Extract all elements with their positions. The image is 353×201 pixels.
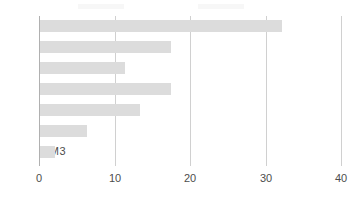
x-tick-label: 20 <box>175 172 205 185</box>
x-tick-label: 40 <box>326 172 353 185</box>
bar-row: M1 <box>0 100 353 121</box>
bar <box>40 125 87 137</box>
bar-row: S3 <box>0 58 353 79</box>
bar-row: S4 <box>0 79 353 100</box>
x-tick-label: 10 <box>100 172 130 185</box>
x-tick-label: 30 <box>251 172 281 185</box>
bar-chart: S1S2S3S4M1M2M3 010203040 <box>0 0 353 201</box>
bar-row: M2 <box>0 121 353 142</box>
bar-row: S2 <box>0 37 353 58</box>
bar <box>40 104 140 116</box>
plot-area: S1S2S3S4M1M2M3 010203040 <box>0 0 353 201</box>
bar <box>40 20 282 32</box>
x-tick-label: 0 <box>24 172 54 185</box>
bar <box>40 83 171 95</box>
bar-row: M3 <box>0 142 353 163</box>
bar <box>40 146 55 158</box>
bar <box>40 41 171 53</box>
bar <box>40 62 125 74</box>
bar-row: S1 <box>0 16 353 37</box>
